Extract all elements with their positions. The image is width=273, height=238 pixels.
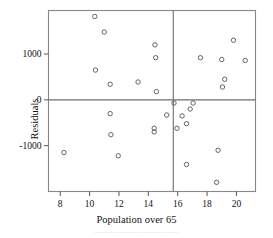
y-axis-label: Residuals	[29, 87, 40, 151]
data-point	[220, 57, 224, 61]
x-axis-label: Population over 65	[0, 214, 273, 225]
data-point	[93, 68, 97, 72]
data-point	[180, 114, 184, 118]
tick-labels: 810121416182010000-1000	[19, 49, 241, 208]
data-point	[154, 89, 158, 93]
figure-caption: ····································	[0, 230, 273, 236]
data-point	[172, 101, 176, 105]
scatter-plot-figure: 810121416182010000-1000 Residuals Popula…	[0, 0, 273, 238]
data-point	[108, 82, 112, 86]
data-point	[214, 180, 218, 184]
data-point	[93, 14, 97, 18]
data-point	[116, 154, 120, 158]
tick-marks	[44, 54, 236, 196]
data-point	[175, 126, 179, 130]
data-point	[108, 111, 112, 115]
data-point	[164, 113, 168, 117]
data-point	[220, 85, 224, 89]
data-point	[184, 162, 188, 166]
data-point	[102, 30, 106, 34]
data-point	[136, 80, 140, 84]
reference-lines	[49, 11, 256, 192]
x-tick-label: 12	[114, 199, 124, 209]
data-point	[243, 58, 247, 62]
data-point	[184, 121, 188, 125]
data-point	[222, 77, 226, 81]
x-tick-label: 14	[144, 199, 154, 209]
data-point	[191, 101, 195, 105]
y-tick-label: 1000	[23, 49, 42, 59]
x-tick-label: 18	[202, 199, 212, 209]
x-tick-label: 16	[173, 199, 183, 209]
x-tick-label: 10	[85, 199, 95, 209]
plot-frame	[49, 11, 256, 192]
x-tick-label: 20	[232, 199, 242, 209]
data-point	[188, 107, 192, 111]
data-point	[62, 150, 66, 154]
plot-canvas: 810121416182010000-1000	[0, 0, 273, 238]
data-point	[216, 148, 220, 152]
data-point	[153, 56, 157, 60]
data-point	[198, 56, 202, 60]
data-point	[231, 38, 235, 42]
data-point	[153, 43, 157, 47]
x-tick-label: 8	[58, 199, 63, 209]
data-point	[109, 132, 113, 136]
